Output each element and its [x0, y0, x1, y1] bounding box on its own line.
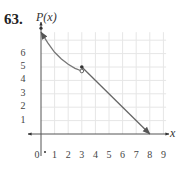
- x-tick-label: 3: [76, 149, 88, 160]
- x-tick-label: 2: [62, 149, 74, 160]
- x-tick-label: 0: [31, 149, 43, 160]
- plot-area: [0, 0, 185, 170]
- x-tick-label: 6: [117, 149, 129, 160]
- y-tick-label: 6: [17, 47, 29, 58]
- y-tick-label: 1: [17, 114, 29, 125]
- y-tick-label: 3: [17, 87, 29, 98]
- closed-dot-marker: [80, 65, 84, 69]
- decreasing-curve: [41, 32, 82, 71]
- x-tick-label: 8: [144, 149, 156, 160]
- x-tick-label: 1: [49, 149, 61, 160]
- x-tick-label: 4: [89, 149, 101, 160]
- y-tick-label: 2: [17, 100, 29, 111]
- x-tick-label: 9: [157, 149, 169, 160]
- x-tick-label: 7: [130, 149, 142, 160]
- closed-dot-marker: [39, 27, 42, 30]
- x-tick-label: 5: [103, 149, 115, 160]
- origin-dot: [44, 151, 46, 153]
- line-segment: [82, 67, 150, 134]
- y-tick-label: 4: [17, 73, 29, 84]
- y-tick-label: 5: [17, 60, 29, 71]
- open-circle-marker: [80, 69, 84, 73]
